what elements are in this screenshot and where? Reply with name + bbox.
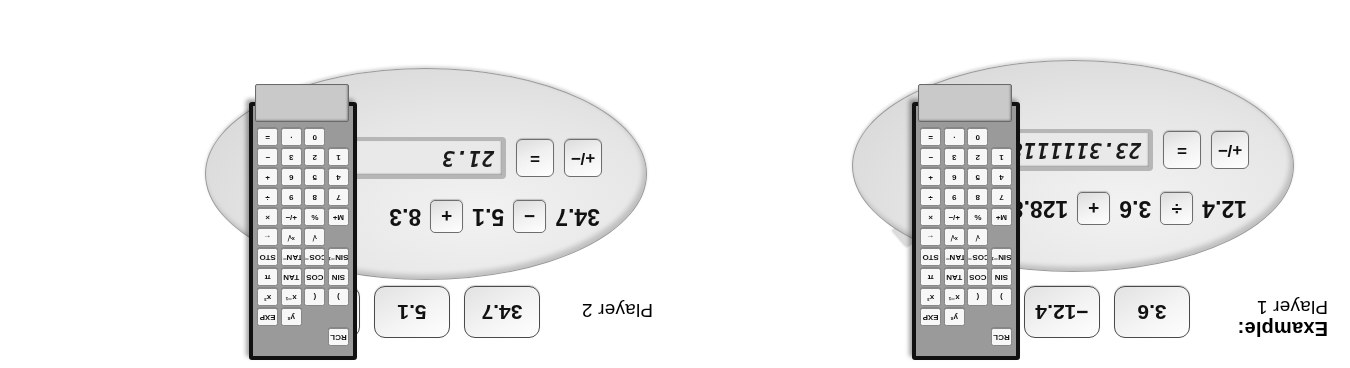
calculator-key[interactable]: − — [257, 149, 278, 167]
equals-key[interactable]: = — [1163, 131, 1201, 169]
calculator-key[interactable]: ← — [257, 229, 278, 247]
calculator-key-blank — [967, 331, 988, 347]
calculator-key[interactable]: M+ — [328, 209, 349, 227]
equals-key[interactable]: = — [516, 139, 554, 177]
calculator-key[interactable]: ( — [967, 289, 988, 307]
calculator-key[interactable]: 0 — [967, 129, 988, 147]
calculator-key[interactable]: ← — [920, 229, 941, 247]
calculator-key[interactable]: · — [281, 129, 302, 147]
calculator-key[interactable]: 1 — [991, 149, 1012, 167]
calculator-key[interactable]: TAN — [944, 269, 965, 287]
calculator-key-blank — [991, 131, 1012, 147]
calculator-key[interactable]: π — [257, 269, 278, 287]
calculator-display-value: 21.3 — [441, 146, 494, 170]
calculator-key[interactable]: π — [920, 269, 941, 287]
calculator-key[interactable]: yˣ — [944, 309, 965, 327]
calculator-key[interactable]: ) — [328, 289, 349, 307]
sign-change-key[interactable]: +/− — [1211, 131, 1249, 169]
calculator-key[interactable]: SIN — [328, 269, 349, 287]
number-card[interactable]: 3.6 — [1114, 286, 1190, 338]
calculator-key[interactable]: ÷ — [257, 189, 278, 207]
calculator-1: RCLyˣEXP)(x⁻¹x²SINCOSTANπSIN⁻¹COS⁻¹TAN⁻¹… — [912, 102, 1020, 360]
calculator-key[interactable]: 3 — [281, 149, 302, 167]
calculator-key[interactable]: 7 — [991, 189, 1012, 207]
calculator-key[interactable]: 5 — [304, 169, 325, 187]
calculator-key[interactable]: 5 — [967, 169, 988, 187]
calculator-key[interactable]: yˣ — [281, 309, 302, 327]
calculator-key[interactable]: 9 — [944, 189, 965, 207]
calculator-key[interactable]: % — [304, 209, 325, 227]
calculator-key[interactable]: ) — [991, 289, 1012, 307]
calculator-key[interactable]: x² — [920, 289, 941, 307]
calculator-key[interactable]: +/− — [944, 209, 965, 227]
calculator-key[interactable]: TAN⁻¹ — [944, 249, 965, 267]
calculator-key[interactable]: 8 — [304, 189, 325, 207]
calculator-key[interactable]: ˣ√ — [944, 229, 965, 247]
calculator-key[interactable]: ˣ√ — [281, 229, 302, 247]
calculator-key[interactable]: 6 — [281, 169, 302, 187]
calculator-key[interactable]: 2 — [304, 149, 325, 167]
expression-operand: 12.4 — [1202, 195, 1247, 222]
calculator-key[interactable]: + — [257, 169, 278, 187]
calculator-key[interactable]: 8 — [967, 189, 988, 207]
calculator-keypad: RCLyˣEXP)(x⁻¹x²SINCOSTANπSIN⁻¹COS⁻¹TAN⁻¹… — [257, 129, 349, 347]
calculator-key[interactable]: x² — [257, 289, 278, 307]
operator-key-plus[interactable]: + — [1077, 192, 1110, 225]
calculator-key[interactable]: · — [944, 129, 965, 147]
calculator-key[interactable]: 4 — [991, 169, 1012, 187]
calculator-key[interactable]: COS — [967, 269, 988, 287]
calculator-key[interactable]: +/− — [281, 209, 302, 227]
calculator-key[interactable]: 4 — [328, 169, 349, 187]
calculator-key[interactable]: × — [920, 209, 941, 227]
calculator-key[interactable]: = — [257, 129, 278, 147]
calculator-key[interactable]: SIN⁻¹ — [328, 249, 349, 267]
calculator-key[interactable]: 1 — [328, 149, 349, 167]
calculator-key[interactable]: ( — [304, 289, 325, 307]
number-card[interactable]: 5.1 — [374, 286, 450, 338]
calculator-key[interactable]: TAN⁻¹ — [281, 249, 302, 267]
calculator-key[interactable]: ÷ — [920, 189, 941, 207]
calculator-key[interactable]: EXP — [257, 309, 278, 327]
calculator-key[interactable]: RCL — [991, 329, 1012, 347]
player-1-panel: Example: Player 1 3.6 −12.4 128.8 12.4 ÷… — [675, 0, 1350, 368]
calculator-key[interactable]: 0 — [304, 129, 325, 147]
calculator-key[interactable]: COS⁻¹ — [967, 249, 988, 267]
number-card[interactable]: −12.4 — [1024, 286, 1100, 338]
calculator-key[interactable]: STO — [920, 249, 941, 267]
calculator-key[interactable]: 7 — [328, 189, 349, 207]
calculator-key[interactable]: RCL — [328, 329, 349, 347]
number-card[interactable]: 34.7 — [464, 286, 540, 338]
operator-key-plus[interactable]: + — [430, 200, 463, 233]
calculator-key-blank — [257, 331, 278, 347]
calculator-key[interactable]: √ — [967, 229, 988, 247]
operator-key-minus[interactable]: − — [513, 200, 546, 233]
calculator-key[interactable]: % — [967, 209, 988, 227]
calculator-key[interactable]: 3 — [944, 149, 965, 167]
calculator-key[interactable]: 2 — [967, 149, 988, 167]
calculator-key[interactable]: EXP — [920, 309, 941, 327]
calculator-key[interactable]: 9 — [281, 189, 302, 207]
calculator-key[interactable]: x⁻¹ — [281, 289, 302, 307]
calculator-key[interactable]: − — [920, 149, 941, 167]
calculator-key[interactable]: SIN⁻¹ — [991, 249, 1012, 267]
calculator-key[interactable]: = — [920, 129, 941, 147]
calculator-key[interactable]: M+ — [991, 209, 1012, 227]
calculator-key[interactable]: TAN — [281, 269, 302, 287]
calculator-key[interactable]: √ — [304, 229, 325, 247]
expression-operand: 34.7 — [555, 203, 600, 230]
calculator-key[interactable]: SIN — [991, 269, 1012, 287]
calculator-key[interactable]: × — [257, 209, 278, 227]
calculator-display-value: 23.3111118 — [1010, 138, 1141, 162]
calculator-key-blank — [944, 331, 965, 347]
calculator-key[interactable]: COS — [304, 269, 325, 287]
calculator-key[interactable]: 6 — [944, 169, 965, 187]
operator-key-divide[interactable]: ÷ — [1160, 192, 1193, 225]
calculator-key-blank — [920, 331, 941, 347]
calculator-key[interactable]: + — [920, 169, 941, 187]
calculator-key[interactable]: x⁻¹ — [944, 289, 965, 307]
sign-change-key[interactable]: +/− — [564, 139, 602, 177]
calculator-key[interactable]: STO — [257, 249, 278, 267]
player-1-expression: 12.4 ÷ 3.6 + 128.8 — [1011, 192, 1247, 225]
calculator-key[interactable]: COS⁻¹ — [304, 249, 325, 267]
expression-operand: 5.1 — [472, 203, 504, 230]
